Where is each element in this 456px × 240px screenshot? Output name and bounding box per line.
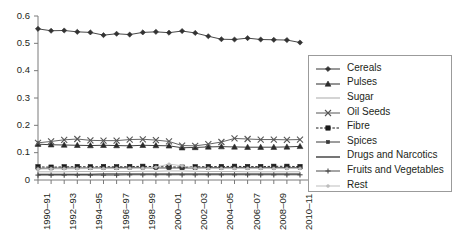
data-point-diamond	[166, 30, 171, 35]
legend-label: Rest	[347, 179, 368, 190]
x-axis-tick-label: 1990–91	[42, 193, 52, 230]
data-point-dot	[233, 167, 236, 170]
line-chart: 00.10.20.30.40.50.6 1990–911992–931994–9…	[0, 0, 456, 240]
data-point-plus	[325, 169, 330, 174]
data-point-dot	[285, 167, 288, 170]
y-axis-tick-label: 0.3	[4, 93, 30, 103]
legend-item-drugs-and-narcotics[interactable]: Drugs and Narcotics	[309, 148, 451, 163]
legend-item-spices[interactable]: Spices	[309, 133, 451, 148]
legend-sample-svg	[314, 107, 342, 119]
data-point-dot	[154, 166, 157, 169]
data-point-dot	[272, 167, 275, 170]
legend-label: Fibre	[347, 120, 370, 131]
legend-swatch-line-icon	[314, 90, 342, 102]
legend-swatch-plus-icon	[314, 163, 342, 175]
data-point-diamond	[101, 33, 106, 38]
data-point-plus	[114, 172, 119, 177]
data-point-diamond	[193, 30, 198, 35]
data-point-dot	[181, 164, 184, 167]
x-axis-tick-label: 2000–01	[173, 193, 183, 230]
data-point-square-small	[167, 166, 170, 169]
series-fruits-and-vegetables	[35, 172, 302, 177]
x-axis-tick-label: 2004–05	[225, 193, 235, 230]
legend-swatch-line-icon	[314, 149, 342, 161]
legend-sample-svg	[314, 136, 342, 148]
legend-item-cereals[interactable]: Cereals	[309, 60, 451, 75]
y-axis-tick-label: 0.2	[4, 120, 30, 130]
x-axis-tick-label: 1994–95	[94, 193, 104, 230]
data-point-dot	[89, 167, 92, 170]
legend-sample-svg	[314, 122, 342, 134]
legend-label: Fruits and Vegetables	[347, 164, 444, 175]
data-point-dot	[207, 167, 210, 170]
y-axis-tick-label: 0.4	[4, 65, 30, 75]
data-point-plus	[166, 172, 171, 177]
data-point-diamond	[88, 30, 93, 35]
legend-sample-svg	[314, 63, 342, 75]
data-point-plus	[284, 172, 289, 177]
y-axis-tick-label: 0.5	[4, 38, 30, 48]
y-axis-tick-label: 0.1	[4, 147, 30, 157]
legend-item-fruits-and-vegetables[interactable]: Fruits and Vegetables	[309, 162, 451, 177]
x-axis-tick-label: 1992–93	[68, 193, 78, 230]
series-sugar	[38, 171, 300, 172]
legend-item-oil-seeds[interactable]: Oil Seeds	[309, 104, 451, 119]
legend-item-pulses[interactable]: Pulses	[309, 75, 451, 90]
x-axis-tick-label: 2010–11	[304, 194, 314, 230]
data-point-plus	[127, 172, 132, 177]
data-point-diamond	[153, 29, 158, 34]
legend-item-fibre[interactable]: Fibre	[309, 118, 451, 133]
data-point-diamond	[35, 26, 40, 31]
data-point-triangle	[297, 143, 303, 148]
series-line	[38, 171, 300, 172]
x-axis-tick-label: 1996–97	[121, 193, 131, 230]
legend-sample-svg	[314, 180, 342, 192]
legend-swatch-triangle-icon	[314, 76, 342, 88]
x-axis-tick-label: 2002–03	[199, 193, 209, 230]
legend-swatch-square-small-icon	[314, 134, 342, 146]
data-point-dot	[50, 167, 53, 170]
data-point-plus	[101, 172, 106, 177]
data-point-square-small	[326, 141, 329, 144]
data-point-dot	[246, 167, 249, 170]
data-point-diamond	[127, 32, 132, 37]
data-point-plus	[140, 172, 145, 177]
series-pulses	[35, 141, 303, 150]
data-point-dot	[128, 167, 131, 170]
data-point-plus	[153, 172, 158, 177]
y-axis-tick-label: 0.6	[4, 11, 30, 21]
data-point-diamond	[140, 30, 145, 35]
data-point-diamond	[114, 31, 119, 36]
data-point-dot	[259, 167, 262, 170]
data-point-dot	[115, 167, 118, 170]
x-axis-tick-label: 1998–99	[147, 193, 157, 230]
data-point-plus	[271, 172, 276, 177]
data-point-plus	[49, 172, 54, 177]
data-point-diamond	[75, 29, 80, 34]
data-point-diamond	[284, 37, 289, 42]
data-point-plus	[62, 172, 67, 177]
legend-item-rest[interactable]: Rest	[309, 177, 451, 192]
legend-label: Sugar	[347, 91, 374, 102]
data-point-diamond	[271, 37, 276, 42]
legend-item-sugar[interactable]: Sugar	[309, 89, 451, 104]
data-point-plus	[297, 172, 302, 177]
legend-label: Cereals	[347, 62, 381, 73]
data-point-plus	[180, 172, 185, 177]
legend-label: Drugs and Narcotics	[347, 149, 438, 160]
data-point-dot	[299, 167, 302, 170]
data-point-dot	[102, 167, 105, 170]
series-cereals	[35, 26, 302, 45]
x-axis-tick-label: 2006–07	[252, 193, 262, 230]
legend-sample-svg	[314, 165, 342, 177]
data-point-dot	[168, 163, 171, 166]
y-axis-tick-label: 0	[4, 175, 30, 185]
legend-label: Pulses	[347, 76, 377, 87]
data-point-plus	[258, 172, 263, 177]
data-point-plus	[245, 172, 250, 177]
data-point-diamond	[232, 37, 237, 42]
data-point-plus	[232, 172, 237, 177]
chart-legend: CerealsPulsesSugarOil SeedsFibreSpicesDr…	[308, 55, 452, 192]
data-point-diamond	[62, 28, 67, 33]
legend-swatch-diamond-icon	[314, 61, 342, 73]
